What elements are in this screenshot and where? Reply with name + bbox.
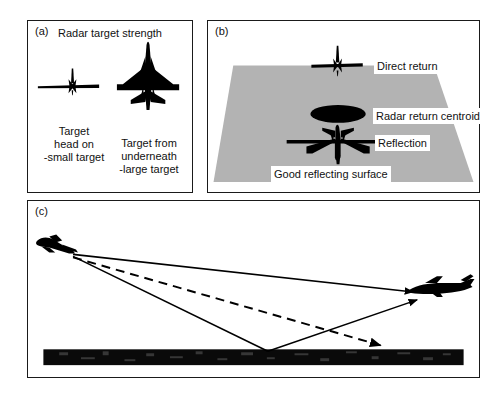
panel-c: (c) — [27, 200, 480, 378]
direct-path-ray — [73, 254, 413, 292]
aircraft-head-on-icon — [38, 68, 99, 95]
reflected-ground-ray — [268, 300, 417, 351]
radar-return-centroid-blob — [310, 105, 365, 123]
aircraft-radar-source-icon — [36, 235, 78, 254]
panel-a: (a) Radar target strength — [27, 20, 193, 193]
panel-b: (b) — [207, 20, 480, 193]
aircraft-target-icon — [409, 274, 474, 297]
label-direct-return: Direct return — [374, 58, 441, 74]
label-radar-return-centroid: Radar return centroid — [373, 108, 483, 124]
caption-line: Target from — [104, 137, 194, 150]
panel-c-graphics — [28, 201, 479, 377]
panel-a-caption-planform: Target from underneath -large target — [104, 137, 194, 176]
caption-line: -large target — [104, 163, 194, 176]
caption-line: underneath — [104, 150, 194, 163]
label-good-reflecting-surface: Good reflecting surface — [271, 166, 391, 182]
aircraft-planform-icon — [117, 42, 179, 110]
radar-multipath-figure: (a) Radar target strength — [0, 0, 497, 398]
label-reflection: Reflection — [375, 135, 430, 151]
